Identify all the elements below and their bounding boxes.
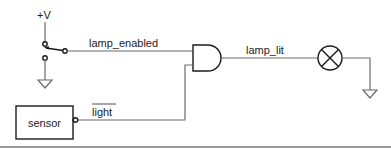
lamp-icon: [318, 46, 342, 70]
sensor-label: sensor: [28, 117, 61, 129]
supply-label: +V: [37, 9, 51, 21]
circuit-diagram: +V lamp_enabled light sensor lamp_lit: [0, 0, 391, 149]
switch-icon: [43, 42, 67, 60]
ground-icon: [38, 80, 52, 88]
lamp-ground-wire: [342, 58, 370, 90]
lamp-enabled-label: lamp_enabled: [89, 37, 158, 49]
ground-icon: [363, 90, 377, 98]
light-label: light: [92, 106, 112, 118]
lamp-lit-label: lamp_lit: [246, 44, 284, 56]
and-gate-icon: [193, 45, 221, 71]
inverter-bubble-icon: [73, 118, 77, 122]
